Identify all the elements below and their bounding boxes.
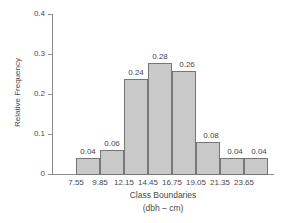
y-axis-tick-label-3: 0.3 (20, 50, 45, 58)
bar-6 (220, 158, 244, 175)
x-axis-tick-label-7: 23.65 (230, 178, 258, 187)
bar-4 (172, 71, 196, 175)
bar-0 (76, 158, 100, 175)
y-axis-tick-4 (48, 14, 53, 15)
y-axis-tick-3 (48, 54, 53, 55)
histogram-chart: 0 0.1 0.2 0.3 0.4 0.04 0.06 0.24 0.28 0.… (0, 0, 282, 223)
bar-value-label-2: 0.24 (119, 69, 153, 77)
y-axis-tick-label-3-wrap: 0.3 (20, 50, 45, 58)
bar-value-label-4: 0.26 (170, 61, 204, 69)
y-axis-tick-label-0-wrap: 0 (20, 170, 45, 178)
y-axis-tick-label-2-wrap: 0.2 (20, 90, 45, 98)
bar-value-label-3: 0.28 (143, 53, 177, 61)
x-axis-units-label: (dbh – cm) (52, 203, 274, 213)
bar-value-label-7: 0.04 (242, 148, 276, 156)
bar-2 (124, 79, 148, 175)
x-axis-title: Class Boundaries (52, 190, 274, 200)
y-axis-title: Relative Frequency (13, 38, 22, 148)
y-axis-tick-label-4: 0.4 (20, 10, 45, 18)
bar-value-label-5: 0.08 (194, 132, 228, 140)
y-axis-tick-label-1-wrap: 0.1 (20, 130, 45, 138)
bar-5 (196, 142, 220, 175)
y-axis-tick-label-4-wrap: 0.4 (20, 10, 45, 18)
y-axis-tick-1 (48, 134, 53, 135)
bar-7 (244, 158, 268, 175)
bar-value-label-0: 0.04 (71, 148, 105, 156)
bar-3 (148, 63, 172, 175)
y-axis-tick-label-2: 0.2 (20, 90, 45, 98)
y-axis-tick-label-0: 0 (20, 170, 45, 178)
y-axis-tick-2 (48, 94, 53, 95)
y-axis-tick-label-1: 0.1 (20, 130, 45, 138)
bar-value-label-1: 0.06 (95, 140, 129, 148)
